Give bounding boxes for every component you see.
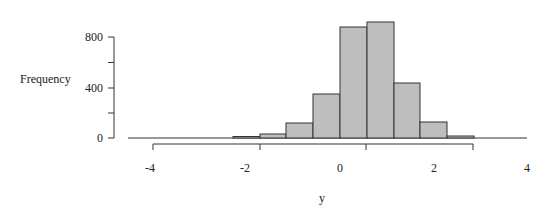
y-axis-label: Frequency xyxy=(20,72,71,86)
y-tick-800: 800 xyxy=(85,30,103,44)
bar xyxy=(367,22,394,138)
bar xyxy=(313,94,340,138)
x-axis xyxy=(153,144,473,150)
x-tick-4: 4 xyxy=(524,161,530,175)
y-tick-400: 400 xyxy=(85,81,103,95)
bar xyxy=(340,27,367,138)
x-axis-label: y xyxy=(319,191,325,205)
x-tick-2: 2 xyxy=(431,161,437,175)
histogram-chart: 800 400 0 Frequency -4 -2 0 2 4 y xyxy=(0,0,550,217)
bar xyxy=(394,83,420,138)
bar xyxy=(447,136,474,138)
bar xyxy=(233,137,260,139)
bar xyxy=(260,134,286,138)
bar xyxy=(286,123,313,138)
bar xyxy=(420,122,447,138)
x-tick-minus2: -2 xyxy=(240,161,250,175)
y-tick-0: 0 xyxy=(97,131,103,145)
histogram-bars xyxy=(233,22,474,138)
y-axis xyxy=(108,37,114,138)
x-tick-0: 0 xyxy=(337,161,343,175)
x-tick-minus4: -4 xyxy=(145,161,155,175)
